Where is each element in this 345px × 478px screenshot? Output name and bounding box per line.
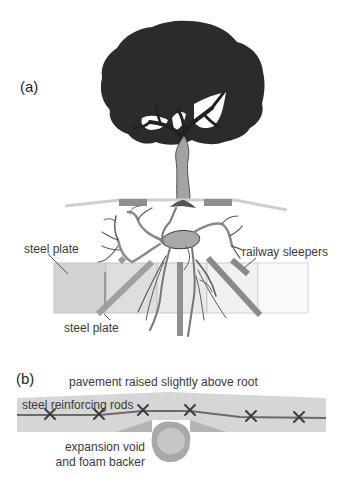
surface-plate-right bbox=[204, 199, 232, 206]
surface-plate-left bbox=[119, 199, 147, 206]
steel-plate-lower-leader bbox=[104, 314, 110, 320]
expansion-void bbox=[152, 422, 191, 462]
void-label-line2: and foam backer bbox=[56, 455, 145, 469]
steel-plate-upper-label: steel plate bbox=[24, 242, 79, 256]
tree-root-protection-diagram: (a) bbox=[0, 0, 345, 478]
panel-a-label: (a) bbox=[20, 78, 38, 95]
tree-trunk bbox=[176, 136, 190, 200]
pavement-label: pavement raised slightly above root bbox=[69, 375, 258, 389]
steel-plate-lower-label: steel plate bbox=[64, 321, 119, 335]
panel-b-label: (b) bbox=[16, 370, 34, 387]
railway-sleepers-label: railway sleepers bbox=[242, 245, 328, 259]
void-label-line1: expansion void bbox=[65, 440, 145, 454]
reinforcing-rods-label: steel reinforcing rods bbox=[22, 398, 133, 412]
